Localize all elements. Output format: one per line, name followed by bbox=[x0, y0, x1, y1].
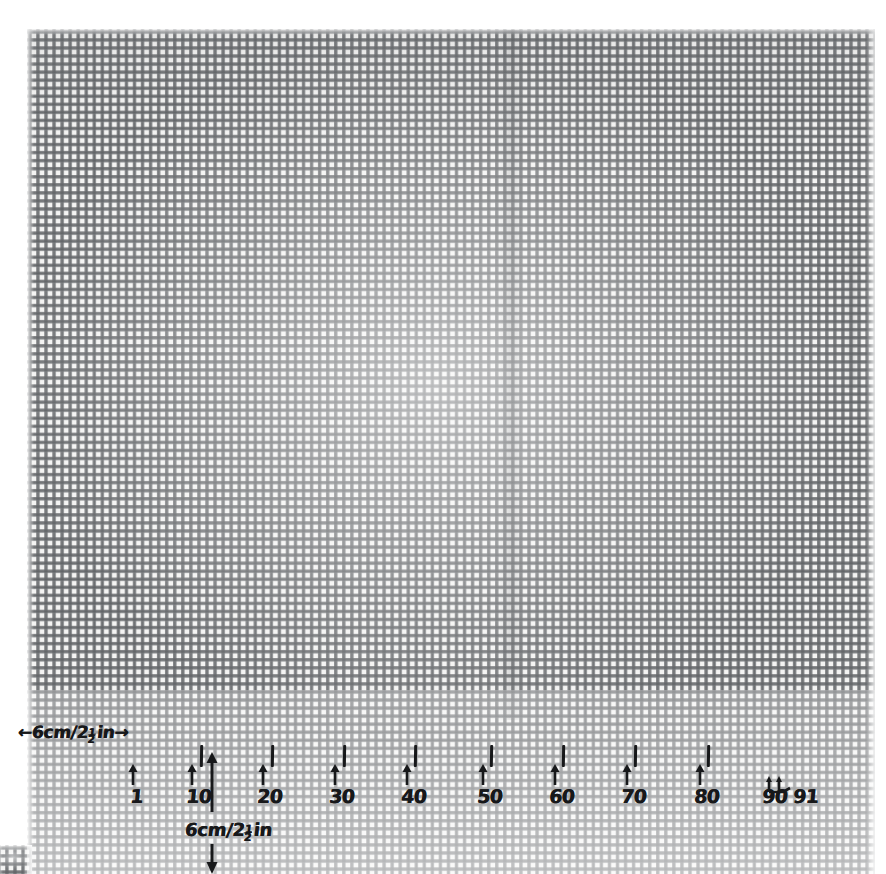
tick-label-70: 70 bbox=[620, 785, 647, 807]
vertical-scale-annotation: 6cm/212in bbox=[184, 819, 273, 840]
tick-label-50: 50 bbox=[476, 785, 503, 807]
tick-label-40: 40 bbox=[400, 785, 427, 807]
tick-label-60: 60 bbox=[548, 785, 575, 807]
horizontal-fraction-denominator: 2 bbox=[87, 734, 95, 745]
woven-mesh-scrap bbox=[0, 845, 32, 874]
tick-hash-40 bbox=[414, 745, 417, 767]
tick-arrow-30 bbox=[329, 764, 341, 785]
tick-arrow-50 bbox=[477, 764, 489, 785]
tick-arrow-10 bbox=[186, 764, 198, 785]
woven-mesh-canvas bbox=[27, 29, 875, 874]
vertical-fraction-denominator: 2 bbox=[243, 832, 252, 843]
mesh-photograph: ←6cm/212in→ 6cm/212in 110203040506070809… bbox=[0, 0, 886, 874]
vertical-scale-unit-in: in bbox=[252, 819, 273, 840]
tick-hash-80 bbox=[707, 745, 710, 767]
tick-arrow-20 bbox=[257, 764, 269, 785]
tick-hash-30 bbox=[343, 745, 346, 767]
tick-label-10: 10 bbox=[185, 785, 212, 807]
tick-label-20: 20 bbox=[256, 785, 283, 807]
tick-hash-50 bbox=[490, 745, 493, 767]
tick-label-80: 80 bbox=[693, 785, 720, 807]
horizontal-scale-annotation: ←6cm/212in→ bbox=[17, 722, 130, 742]
mesh-90-91-connector bbox=[766, 776, 806, 796]
tick-hash-10 bbox=[200, 745, 203, 767]
tick-arrow-60 bbox=[549, 764, 561, 785]
vertical-scale-double-arrow bbox=[205, 752, 219, 874]
tick-hash-60 bbox=[562, 745, 565, 767]
horizontal-scale-fraction: 12 bbox=[88, 727, 98, 738]
tick-label-30: 30 bbox=[328, 785, 355, 807]
tick-label-1: 1 bbox=[129, 785, 144, 807]
horizontal-scale-right-arrow: → bbox=[113, 722, 129, 742]
horizontal-scale-unit-cm: cm bbox=[42, 722, 71, 742]
tick-arrow-40 bbox=[401, 764, 413, 785]
tick-hash-70 bbox=[634, 745, 637, 767]
tick-arrow-80 bbox=[694, 764, 706, 785]
tick-hash-20 bbox=[271, 745, 274, 767]
tick-arrow-70 bbox=[621, 764, 633, 785]
tick-arrow-1 bbox=[127, 764, 139, 785]
vertical-scale-fraction: 12 bbox=[244, 825, 254, 836]
vertical-scale-unit-cm: cm bbox=[196, 819, 227, 840]
